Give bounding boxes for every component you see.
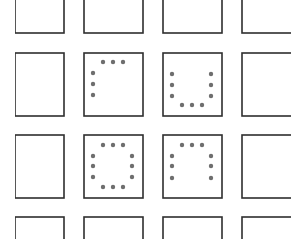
dot [111, 60, 115, 64]
dot [180, 143, 184, 147]
dot [121, 143, 125, 147]
cell-frame-r2-c0 [15, 135, 64, 198]
dot [121, 60, 125, 64]
dot [170, 83, 174, 87]
cell-frame-r0-c0 [15, 0, 64, 33]
dot-pattern-full-ring [91, 143, 134, 189]
dot [101, 185, 105, 189]
cell-frame-r1-c3 [242, 53, 292, 116]
dot-pattern-grid [0, 0, 306, 239]
diagram-stage [0, 0, 306, 239]
dot [130, 175, 134, 179]
dot [209, 83, 213, 87]
cell-frame-r3-c0 [15, 217, 64, 239]
cell-frame-r3-c3 [242, 217, 292, 239]
cell-frame-r1-c0 [15, 53, 64, 116]
cell-frames [0, 0, 306, 239]
dot [170, 72, 174, 76]
dot [130, 164, 134, 168]
dot [91, 93, 95, 97]
dot [91, 82, 95, 86]
cell-frame-r0-c1 [84, 0, 143, 33]
dot [111, 143, 115, 147]
dot [91, 175, 95, 179]
dot [101, 143, 105, 147]
cell-frame-r3-c2 [163, 217, 222, 239]
dot [209, 72, 213, 76]
dot-pattern-U-shape [170, 72, 213, 107]
dot [190, 103, 194, 107]
dot-pattern-top-left-L [91, 60, 125, 97]
dot [130, 154, 134, 158]
cell-dots [91, 60, 213, 189]
dot [180, 103, 184, 107]
dot [91, 164, 95, 168]
dot [170, 154, 174, 158]
dot [101, 60, 105, 64]
cell-frame-r0-c2 [163, 0, 222, 33]
dot [121, 185, 125, 189]
dot [170, 176, 174, 180]
cell-frame-r0-c3 [242, 0, 292, 33]
dot [200, 103, 204, 107]
dot [91, 71, 95, 75]
dot [209, 164, 213, 168]
dot [170, 164, 174, 168]
dot [91, 154, 95, 158]
cell-frame-r3-c1 [84, 217, 143, 239]
dot [200, 143, 204, 147]
dot-pattern-inverted-U [170, 143, 213, 180]
dot [209, 154, 213, 158]
dot [209, 94, 213, 98]
dot [170, 94, 174, 98]
cell-frame-r2-c3 [242, 135, 292, 198]
dot [209, 176, 213, 180]
dot [190, 143, 194, 147]
dot [111, 185, 115, 189]
